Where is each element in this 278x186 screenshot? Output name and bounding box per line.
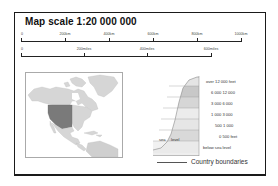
level-label: level <box>171 137 179 142</box>
elevation-band-label: below sea level <box>203 145 231 150</box>
miles-bar-line <box>21 56 212 57</box>
map-key-frame: Map scale 1:20 000 000 0 200km 400km 600… <box>14 12 266 176</box>
elevation-band-label: over 12 000 feet <box>206 79 236 84</box>
north-america-map-graphic <box>26 73 122 157</box>
map-scale-title: Map scale 1:20 000 000 <box>25 16 137 27</box>
country-boundaries-label: Country boundaries <box>191 158 248 165</box>
km-tick <box>21 38 22 42</box>
elevation-legend: sea level over 12 000 feet 6 000 12 000 … <box>153 76 263 156</box>
miles-scale-bar: 0 200miles 400miles 600miles <box>21 47 213 61</box>
km-tick <box>65 38 66 42</box>
elevation-band-label: 0 500 feet <box>219 134 237 139</box>
km-label: 600km <box>148 32 159 36</box>
elevation-band-label: 500 1 000 <box>215 123 233 128</box>
miles-label: 400miles <box>140 47 154 51</box>
km-bar-line <box>21 41 242 42</box>
km-label: 400km <box>104 32 115 36</box>
km-label: 800km <box>192 32 203 36</box>
miles-tick <box>21 53 22 57</box>
elevation-band-label: 3 000 6 000 <box>211 101 233 106</box>
miles-label: 600miles <box>204 47 218 51</box>
km-label: 0 <box>21 32 23 36</box>
km-scale-bar: 0 200km 400km 600km 800km 1000km <box>21 32 243 46</box>
km-tick <box>197 38 198 42</box>
km-label: 200km <box>60 32 71 36</box>
miles-label: 200miles <box>77 47 91 51</box>
elevation-profile-graphic <box>153 76 263 156</box>
boundary-line-symbol <box>157 162 187 163</box>
km-tick <box>153 38 154 42</box>
miles-tick <box>147 53 148 57</box>
km-label: 1000km <box>235 32 248 36</box>
elevation-band-label: 1 000 3 000 <box>211 112 233 117</box>
elevation-band-label: 6 000 12 000 <box>211 90 235 95</box>
miles-tick <box>211 53 212 57</box>
km-tick <box>109 38 110 42</box>
miles-tick <box>84 53 85 57</box>
km-tick <box>241 38 242 42</box>
sea-label: sea <box>159 137 166 142</box>
locator-map-north-america <box>25 72 123 158</box>
miles-label: 0 <box>21 47 23 51</box>
